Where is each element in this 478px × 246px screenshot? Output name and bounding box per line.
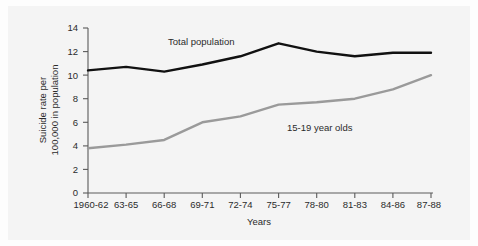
series-annotation-total-population: Total population [168,36,235,47]
line-chart: Suicide rate per 100,000 in population 0… [0,0,478,246]
y-tick-label: 2 [73,164,78,175]
y-tick-label: 0 [73,187,78,198]
x-axis-ticks: 1960-62 63-65 66-68 69-71 72-74 75-77 78… [74,193,442,210]
y-tick-label: 4 [73,140,78,151]
y-tick-label: 12 [67,46,78,57]
series-line-total-population [88,43,431,71]
x-tick-label: 72-74 [228,199,252,210]
y-axis-title-line2: 100,000 in population [49,65,60,156]
x-axis-title: Years [247,216,271,227]
x-tick-label: 78-80 [305,199,329,210]
x-tick-label: 1960-62 [74,199,109,210]
x-tick-label: 63-65 [114,199,138,210]
y-axis-title: Suicide rate per 100,000 in population [37,65,60,156]
y-axis-title-line1: Suicide rate per [37,77,48,144]
x-tick-label: 87-88 [417,199,441,210]
series-line-15-19-year-olds [88,75,431,148]
x-tick-label: 81-83 [343,199,367,210]
x-tick-label: 84-86 [381,199,405,210]
y-tick-label: 10 [67,70,78,81]
chart-figure: Suicide rate per 100,000 in population 0… [0,0,478,246]
y-tick-label: 14 [67,22,78,33]
y-tick-label: 8 [73,93,78,104]
x-tick-label: 69-71 [190,199,214,210]
y-tick-label: 6 [73,117,78,128]
x-tick-label: 75-77 [266,199,290,210]
y-axis-ticks: 0 2 4 6 8 10 12 14 [67,22,88,198]
x-tick-label: 66-68 [152,199,176,210]
series-annotation-15-19-year-olds: 15-19 year olds [287,122,353,133]
